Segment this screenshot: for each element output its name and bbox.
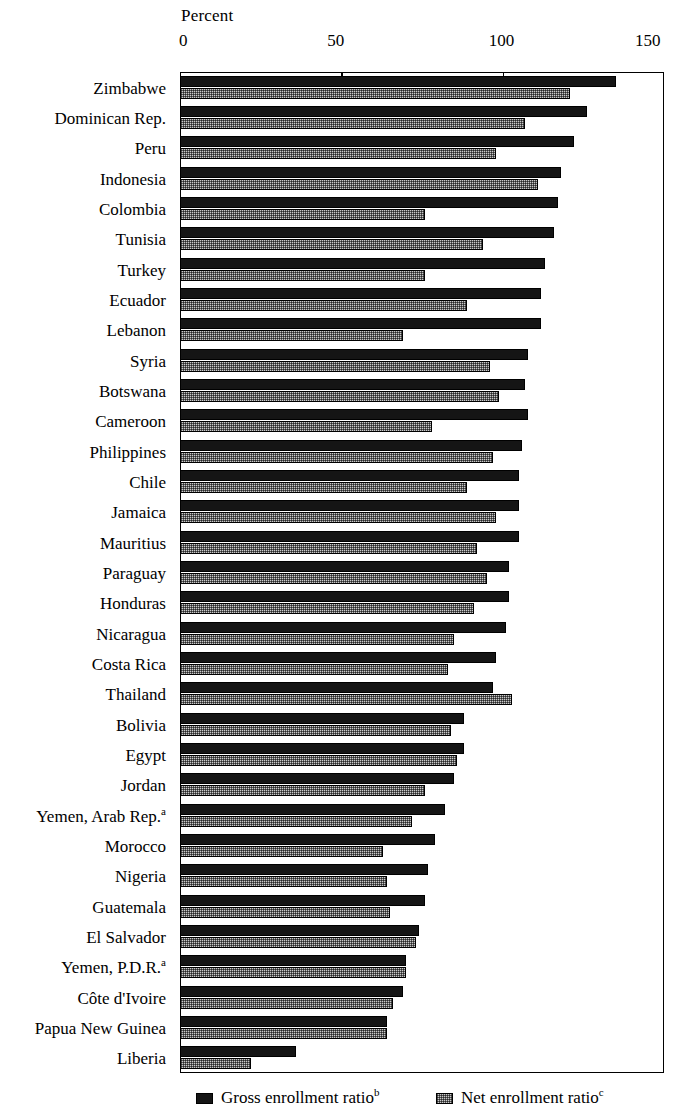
category-label-tunisia: Tunisia: [116, 231, 166, 248]
category-label-cameroon: Cameroon: [95, 413, 166, 430]
category-label-text: Turkey: [118, 261, 167, 280]
category-label-dominican-rep: Dominican Rep.: [55, 110, 166, 127]
bar-net-paraguay: [180, 573, 487, 584]
category-label-indonesia: Indonesia: [100, 171, 166, 188]
category-label-c-te-d-ivoire: Côte d'Ivoire: [77, 990, 166, 1007]
bar-net-botswana: [180, 391, 499, 402]
bar-net-bolivia: [180, 725, 451, 736]
category-label-jamaica: Jamaica: [111, 504, 166, 521]
bar-gross-bolivia: [180, 713, 464, 724]
category-label-thailand: Thailand: [106, 686, 166, 703]
category-label-text: Cameroon: [95, 412, 166, 431]
bar-gross-egypt: [180, 743, 464, 754]
category-label-text: Papua New Guinea: [35, 1019, 166, 1038]
bar-net-chile: [180, 482, 467, 493]
category-label-text: Colombia: [99, 200, 166, 219]
category-label-text: Guatemala: [92, 898, 166, 917]
category-label-text: Egypt: [125, 746, 166, 765]
category-label-nicaragua: Nicaragua: [96, 626, 166, 643]
bar-net-morocco: [180, 846, 383, 857]
bar-net-ecuador: [180, 300, 467, 311]
category-label-text: Botswana: [99, 382, 166, 401]
legend-label-gross-text: Gross enrollment ratio: [221, 1088, 374, 1107]
legend-footnote-gross: b: [374, 1086, 380, 1098]
x-tick-label-50: 50: [327, 31, 344, 51]
bar-gross-liberia: [180, 1046, 296, 1057]
legend-footnote-net: c: [599, 1086, 604, 1098]
category-label-text: Yemen, Arab Rep.: [36, 807, 161, 826]
bar-net-lebanon: [180, 330, 403, 341]
chart-legend: Gross enrollment ratiob Net enrollment r…: [0, 1088, 679, 1116]
category-label-jordan: Jordan: [121, 777, 166, 794]
category-label-egypt: Egypt: [125, 747, 166, 764]
bar-gross-costa-rica: [180, 652, 496, 663]
category-label-philippines: Philippines: [89, 444, 166, 461]
bar-gross-philippines: [180, 440, 522, 451]
category-label-text: Nicaragua: [96, 625, 166, 644]
category-label-peru: Peru: [135, 140, 166, 157]
category-label-honduras: Honduras: [100, 595, 166, 612]
bar-net-cameroon: [180, 421, 432, 432]
bars-layer: [180, 72, 664, 1073]
bar-gross-chile: [180, 470, 519, 481]
category-label-text: Jordan: [121, 776, 166, 795]
category-label-text: Philippines: [89, 443, 166, 462]
category-label-text: Lebanon: [107, 321, 166, 340]
bar-gross-honduras: [180, 591, 509, 602]
bar-gross-nigeria: [180, 864, 428, 875]
category-label-yemen-arab-rep: Yemen, Arab Rep.a: [36, 808, 166, 825]
bar-net-zimbabwe: [180, 88, 570, 99]
legend-swatch-gross-icon: [196, 1093, 213, 1104]
bar-net-c-te-d-ivoire: [180, 998, 393, 1009]
legend-label-net-text: Net enrollment ratio: [461, 1088, 599, 1107]
category-label-text: Thailand: [106, 685, 166, 704]
category-label-paraguay: Paraguay: [103, 565, 166, 582]
bar-gross-cameroon: [180, 409, 528, 420]
bar-gross-morocco: [180, 834, 435, 845]
category-label-text: Jamaica: [111, 503, 166, 522]
bar-gross-tunisia: [180, 227, 554, 238]
bar-net-syria: [180, 361, 490, 372]
category-footnote: a: [161, 805, 166, 817]
category-label-colombia: Colombia: [99, 201, 166, 218]
category-label-el-salvador: El Salvador: [86, 929, 166, 946]
bar-gross-guatemala: [180, 895, 425, 906]
bar-net-nicaragua: [180, 634, 454, 645]
bar-gross-turkey: [180, 258, 545, 269]
legend-entry-gross: Gross enrollment ratiob: [196, 1088, 379, 1108]
category-label-text: Mauritius: [100, 534, 166, 553]
bar-net-liberia: [180, 1058, 251, 1069]
bar-gross-paraguay: [180, 561, 509, 572]
category-label-liberia: Liberia: [117, 1050, 166, 1067]
legend-label-gross: Gross enrollment ratiob: [221, 1088, 379, 1108]
x-tick-label-150: 150: [635, 31, 661, 51]
category-label-lebanon: Lebanon: [107, 322, 166, 339]
legend-entry-net: Net enrollment ratioc: [436, 1088, 604, 1108]
category-label-text: Liberia: [117, 1049, 166, 1068]
bar-net-nigeria: [180, 876, 387, 887]
category-label-nigeria: Nigeria: [115, 868, 166, 885]
category-label-text: Tunisia: [116, 230, 166, 249]
category-label-text: Paraguay: [103, 564, 166, 583]
bar-net-jamaica: [180, 512, 496, 523]
bar-net-turkey: [180, 270, 425, 281]
bar-gross-c-te-d-ivoire: [180, 986, 403, 997]
x-tick-label-0: 0: [179, 31, 188, 51]
category-label-text: Morocco: [105, 837, 166, 856]
category-label-text: Syria: [130, 352, 166, 371]
y-axis-category-labels: ZimbabweDominican Rep.PeruIndonesiaColom…: [0, 72, 174, 1073]
category-label-text: Zimbabwe: [93, 79, 166, 98]
bar-net-honduras: [180, 603, 474, 614]
category-label-text: Bolivia: [116, 716, 166, 735]
x-tick-label-100: 100: [489, 31, 515, 51]
category-label-text: Indonesia: [100, 170, 166, 189]
category-label-botswana: Botswana: [99, 383, 166, 400]
category-label-text: Yemen, P.D.R.: [61, 958, 161, 977]
category-label-text: Chile: [129, 473, 166, 492]
category-label-text: Nigeria: [115, 867, 166, 886]
category-label-papua-new-guinea: Papua New Guinea: [35, 1020, 166, 1037]
bar-net-mauritius: [180, 543, 477, 554]
bar-gross-lebanon: [180, 318, 541, 329]
bar-net-tunisia: [180, 239, 483, 250]
bar-net-guatemala: [180, 907, 390, 918]
